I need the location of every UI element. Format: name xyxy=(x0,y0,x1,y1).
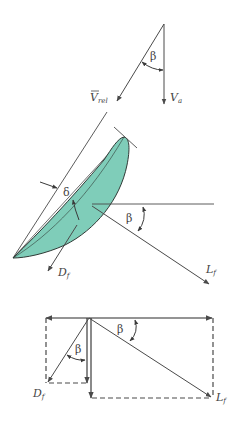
lift-vector xyxy=(92,206,209,284)
vrel-vector xyxy=(117,24,164,101)
airfoil-blade xyxy=(13,137,129,258)
drag-vector xyxy=(48,318,89,382)
force-decomposition: β β Df Lf xyxy=(32,318,227,405)
beta-angle-arc-right xyxy=(130,320,136,341)
lift-vector xyxy=(89,318,211,397)
velocity-triangle: β Vrel Va xyxy=(90,24,182,105)
beta-label: β xyxy=(150,50,156,63)
beta-angle-arc xyxy=(138,207,144,231)
blade-diagram: δ β Df Lf xyxy=(13,112,217,284)
drag-label: Df xyxy=(32,387,46,401)
beta-label-right: β xyxy=(117,323,123,336)
beta-label: β xyxy=(126,212,132,225)
delta-label: δ xyxy=(63,186,70,199)
va-label: Va xyxy=(170,91,182,105)
beta-label-left: β xyxy=(75,343,81,356)
blade-force-diagram: β Vrel Va δ β Df Lf xyxy=(0,0,241,424)
beta-angle-arc xyxy=(142,62,163,70)
lift-label: Lf xyxy=(205,263,217,277)
delta-pointer-arrow xyxy=(40,182,57,188)
vrel-label: Vrel xyxy=(90,91,108,105)
svg-text:Vrel: Vrel xyxy=(90,91,108,105)
lift-label: Lf xyxy=(215,391,227,405)
drag-label: Df xyxy=(57,266,71,280)
